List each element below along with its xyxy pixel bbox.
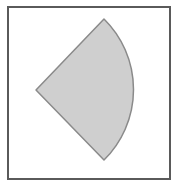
diagram-canvas [0,0,178,190]
